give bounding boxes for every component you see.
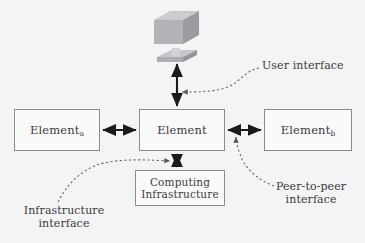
callout-peer-to-peer-line-2: interface — [276, 194, 346, 207]
callout-user-interface: User interface — [262, 60, 344, 73]
node-computing-infrastructure-label: Computing Infrastructure — [141, 176, 219, 201]
leader-user-interface — [182, 68, 259, 92]
callout-infrastructure-line-2: interface — [12, 218, 116, 231]
node-element-a[interactable]: Elementa — [14, 109, 100, 151]
node-element-label: Element — [157, 124, 207, 137]
node-element-b[interactable]: Elementb — [264, 109, 352, 151]
node-element[interactable]: Element — [139, 109, 225, 151]
computing-line-2: Infrastructure — [141, 188, 219, 200]
node-element-a-label: Elementa — [30, 124, 84, 137]
callout-infrastructure-interface: Infrastructure interface — [12, 205, 116, 230]
node-computing-infrastructure[interactable]: Computing Infrastructure — [135, 170, 225, 206]
diagram-canvas: Elementa Element Elementb Computing Infr… — [0, 0, 365, 243]
computer-workstation-icon — [154, 11, 199, 62]
callout-peer-to-peer-line-1: Peer-to-peer — [276, 181, 346, 194]
callout-infrastructure-line-1: Infrastructure — [12, 205, 116, 218]
computing-line-1: Computing — [150, 176, 210, 188]
node-element-b-label: Elementb — [281, 124, 335, 137]
callout-peer-to-peer: Peer-to-peer interface — [276, 181, 346, 206]
callout-user-interface-line-1: User interface — [262, 59, 344, 72]
